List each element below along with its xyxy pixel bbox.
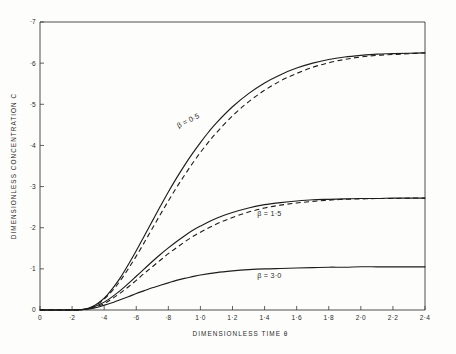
x-tick-label: ·2 — [69, 314, 75, 321]
y-tick-label: ·6 — [30, 60, 36, 67]
x-tick-label: 2·4 — [420, 314, 430, 321]
x-axis-title: DIMENSIONLESS TIME θ — [193, 330, 289, 337]
y-axis-title: DIMENSIONLESS CONCENTRATION C — [10, 93, 17, 239]
x-tick-label: ·8 — [165, 314, 171, 321]
y-tick-label: ·4 — [30, 142, 36, 149]
x-tick-label: 2·2 — [388, 314, 398, 321]
x-tick-label: 1·2 — [227, 314, 237, 321]
y-tick-label: ·5 — [30, 101, 36, 108]
x-tick-label: 1·8 — [324, 314, 334, 321]
y-tick-label: 0 — [32, 306, 36, 313]
x-tick-label: ·4 — [101, 314, 107, 321]
curve-label: β = 3·0 — [257, 271, 281, 280]
chart-background — [0, 0, 456, 354]
x-tick-label: 1·6 — [292, 314, 302, 321]
x-tick-label: ·6 — [133, 314, 139, 321]
y-tick-label: ·2 — [30, 224, 36, 231]
y-tick-label: ·3 — [30, 183, 36, 190]
x-tick-label: 1·4 — [259, 314, 269, 321]
curve-label: β = 1·5 — [257, 209, 281, 218]
x-tick-label: 1·0 — [195, 314, 205, 321]
y-tick-label: ·7 — [30, 18, 36, 25]
y-tick-label: ·1 — [30, 265, 36, 272]
concentration-vs-time-chart: 0·2·4·6·81·01·21·41·61·82·02·22·4 0·1·2·… — [0, 0, 456, 354]
figure-container: 0·2·4·6·81·01·21·41·61·82·02·22·4 0·1·2·… — [0, 0, 456, 354]
x-tick-label: 0 — [38, 314, 42, 321]
x-tick-label: 2·0 — [356, 314, 366, 321]
